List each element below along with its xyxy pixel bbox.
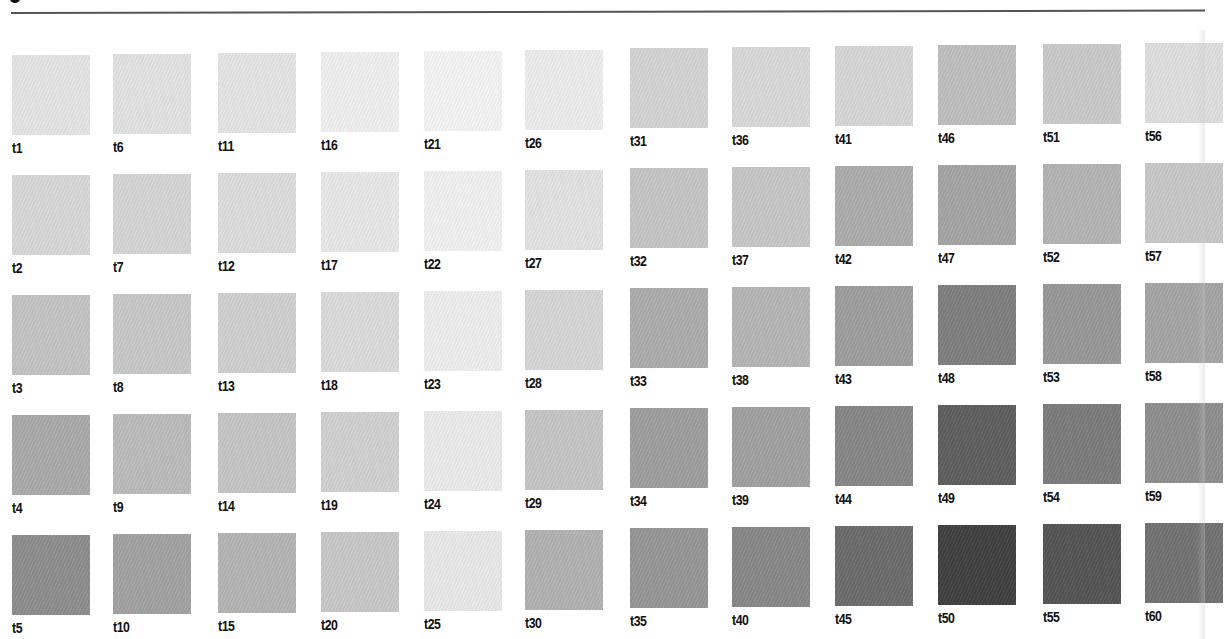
swatch-cell: t21 [424,51,504,152]
swatch-label: t38 [732,371,798,388]
swatch-cell: t47 [938,165,1018,266]
swatch-label: t11 [218,137,284,154]
swatch-cell: t26 [525,50,605,151]
gray-swatch [113,294,191,374]
swatch-cell: t59 [1145,403,1225,504]
gray-swatch [424,531,502,611]
swatch-label: t12 [218,257,284,274]
swatch-cell: t25 [424,531,504,632]
swatch-label: t13 [218,377,284,394]
swatch-cell: t14 [218,413,298,514]
swatch-cell: t51 [1043,44,1123,145]
swatch-cell: t5 [12,535,92,636]
swatch-label: t7 [113,258,179,275]
swatch-cell: t15 [218,533,298,634]
swatch-cell: t17 [321,172,401,273]
gray-swatch [732,287,810,367]
swatch-cell: t54 [1043,404,1123,505]
swatch-label: t48 [938,369,1004,386]
gray-swatch [835,526,913,606]
swatch-cell: t53 [1043,284,1123,385]
gray-swatch [321,172,399,252]
gray-swatch [321,412,399,492]
swatch-label: t28 [525,374,591,391]
gray-swatch [218,53,296,133]
gray-swatch [525,170,603,250]
gray-swatch [938,285,1016,365]
swatch-cell: t34 [630,408,710,509]
gray-swatch [1043,404,1121,484]
swatch-cell: t39 [732,407,812,508]
swatch-label: t43 [835,370,901,387]
swatch-cell: t55 [1043,524,1123,625]
gray-swatch [732,527,810,607]
swatch-label: t2 [12,259,78,276]
swatch-label: t27 [525,254,591,271]
swatch-label: t47 [938,249,1004,266]
swatch-cell: t50 [938,525,1018,626]
swatch-cell: t44 [835,406,915,507]
swatch-label: t50 [938,609,1004,626]
gray-swatch [12,175,90,255]
swatch-label: t53 [1043,368,1109,385]
swatch-cell: t32 [630,168,710,269]
gray-swatch [321,52,399,132]
gray-swatch [630,48,708,128]
swatch-cell: t28 [525,290,605,391]
swatch-cell: t49 [938,405,1018,506]
gray-swatch [113,414,191,494]
swatch-label: t18 [321,376,387,393]
gray-swatch [630,528,708,608]
gray-swatch [835,286,913,366]
gray-swatch [218,293,296,373]
swatch-cell: t42 [835,166,915,267]
swatch-label: t14 [218,497,284,514]
gray-swatch [630,168,708,248]
swatch-cell: t38 [732,287,812,388]
swatch-cell: t10 [113,534,193,635]
swatch-cell: t56 [1145,43,1225,144]
swatch-label: t5 [12,619,78,636]
gray-swatch [1145,283,1223,363]
swatch-cell: t57 [1145,163,1225,264]
gray-swatch [424,171,502,251]
swatch-cell: t46 [938,45,1018,146]
swatch-label: t24 [424,495,490,512]
gray-swatch [732,167,810,247]
gray-swatch [1043,284,1121,364]
swatch-label: t42 [835,250,901,267]
swatch-label: t16 [321,136,387,153]
gray-swatch [1145,163,1223,243]
gray-swatch [938,45,1016,125]
swatch-cell: t16 [321,52,401,153]
swatch-label: t23 [424,375,490,392]
gray-swatch [321,292,399,372]
swatch-cell: t31 [630,48,710,149]
swatch-cell: t3 [12,295,92,396]
swatch-cell: t33 [630,288,710,389]
swatch-label: t26 [525,134,591,151]
swatch-label: t39 [732,491,798,508]
swatch-label: t33 [630,372,696,389]
swatch-cell: t60 [1145,523,1225,624]
gray-swatch [1145,523,1223,603]
swatch-cell: t58 [1145,283,1225,384]
swatch-label: t52 [1043,248,1109,265]
swatch-label: t4 [12,499,78,516]
swatch-cell: t11 [218,53,298,154]
swatch-label: t29 [525,494,591,511]
swatch-label: t25 [424,615,490,632]
gray-swatch [1145,403,1223,483]
gray-swatch [113,174,191,254]
swatch-cell: t23 [424,291,504,392]
swatch-cell: t6 [113,54,193,155]
swatch-cell: t29 [525,410,605,511]
gray-swatch [630,408,708,488]
gray-swatch [1145,43,1223,123]
swatch-label: t51 [1043,128,1109,145]
swatch-label: t35 [630,612,696,629]
swatch-cell: t20 [321,532,401,633]
swatch-label: t40 [732,611,798,628]
gray-swatch [12,295,90,375]
